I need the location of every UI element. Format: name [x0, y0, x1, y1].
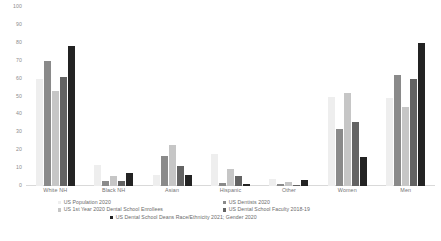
legend-item-us-first-year-enrollees[interactable]: US 1st Year 2020 Dental School Enrollees	[58, 207, 223, 212]
legend-row: US 1st Year 2020 Dental School Enrollees…	[58, 207, 388, 212]
bar[interactable]	[211, 154, 218, 186]
bar-group	[318, 7, 376, 186]
legend-item-label: US 1st Year 2020 Dental School Enrollees	[64, 207, 163, 212]
bar[interactable]	[402, 107, 409, 186]
bar[interactable]	[418, 43, 425, 186]
y-axis-tick-label: 90	[16, 22, 22, 27]
bar-group	[84, 7, 142, 186]
bar[interactable]	[235, 176, 242, 186]
bar[interactable]	[243, 184, 250, 186]
bar[interactable]	[360, 157, 367, 186]
category-label: Asian	[143, 188, 201, 193]
bar[interactable]	[219, 183, 226, 186]
y-axis-tick-label: 10	[16, 165, 22, 170]
y-axis-tick-label: 70	[16, 58, 22, 63]
bar[interactable]	[94, 165, 101, 186]
legend-item-label: US Dental School Faculty 2018-19	[229, 207, 310, 212]
legend-swatch-icon	[223, 201, 226, 204]
legend-row: US Dental School Deans Race/Ethnicity 20…	[58, 215, 388, 220]
plot-area: 0102030405060708090100	[26, 7, 435, 186]
bar[interactable]	[52, 91, 59, 186]
bar-chart-figure: 0102030405060708090100 White NHBlack NHA…	[0, 0, 441, 241]
bar[interactable]	[227, 169, 234, 186]
category-label: White NH	[26, 188, 84, 193]
legend-item-us-dental-school-deans[interactable]: US Dental School Deans Race/Ethnicity 20…	[58, 215, 388, 220]
legend-swatch-icon	[110, 216, 113, 219]
category-label: Black NH	[84, 188, 142, 193]
bar[interactable]	[169, 145, 176, 186]
legend-swatch-icon	[58, 208, 61, 211]
bar-group	[26, 7, 84, 186]
bar[interactable]	[352, 122, 359, 186]
bar[interactable]	[386, 98, 393, 186]
bar[interactable]	[110, 176, 117, 186]
bar-group	[143, 7, 201, 186]
legend-row: US Population 2020 US Dentists 2020	[58, 200, 388, 205]
bar[interactable]	[126, 173, 133, 186]
y-axis-tick-label: 40	[16, 112, 22, 117]
figure-caption	[4, 234, 434, 241]
bar[interactable]	[328, 97, 335, 187]
legend-item-us-population-2020[interactable]: US Population 2020	[58, 200, 223, 205]
y-axis-tick-label: 20	[16, 148, 22, 153]
y-axis-tick-label: 80	[16, 40, 22, 45]
bar[interactable]	[269, 179, 276, 186]
legend-item-label: US Dental School Deans Race/Ethnicity 20…	[116, 215, 257, 220]
bar[interactable]	[336, 129, 343, 186]
bar[interactable]	[185, 175, 192, 186]
bar[interactable]	[285, 182, 292, 186]
bar[interactable]	[161, 156, 168, 186]
y-axis-tick-label: 50	[16, 94, 22, 99]
category-label: Other	[260, 188, 318, 193]
legend-swatch-icon	[58, 201, 61, 204]
bar[interactable]	[44, 61, 51, 186]
category-tick-labels: White NHBlack NHAsianHispanicOtherWomenM…	[26, 188, 435, 193]
bar[interactable]	[293, 185, 300, 186]
bar[interactable]	[153, 175, 160, 186]
legend-item-label: US Dentists 2020	[229, 200, 270, 205]
bar[interactable]	[177, 166, 184, 186]
y-axis-tick-label: 30	[16, 130, 22, 135]
legend-item-label: US Population 2020	[64, 200, 111, 205]
y-axis-tick-label: 100	[13, 4, 22, 9]
legend-swatch-icon	[223, 208, 226, 211]
bar[interactable]	[60, 77, 67, 186]
bar[interactable]	[68, 46, 75, 186]
bar[interactable]	[102, 181, 109, 186]
bar[interactable]	[410, 79, 417, 186]
bar-group	[260, 7, 318, 186]
bar[interactable]	[344, 93, 351, 186]
legend-item-us-dentists-2020[interactable]: US Dentists 2020	[223, 200, 388, 205]
bar-groups	[26, 7, 435, 186]
bar[interactable]	[394, 75, 401, 186]
bar[interactable]	[301, 180, 308, 186]
category-label: Women	[318, 188, 376, 193]
y-axis-tick-label: 0	[19, 183, 22, 188]
bar-group	[377, 7, 435, 186]
bar-group	[201, 7, 259, 186]
category-label: Hispanic	[201, 188, 259, 193]
chart-legend: US Population 2020 US Dentists 2020 US 1…	[58, 200, 388, 222]
legend-item-us-dental-school-faculty[interactable]: US Dental School Faculty 2018-19	[223, 207, 388, 212]
bar[interactable]	[118, 181, 125, 186]
y-axis-tick-label: 60	[16, 76, 22, 81]
bar[interactable]	[36, 79, 43, 186]
bar[interactable]	[277, 184, 284, 186]
category-label: Men	[377, 188, 435, 193]
